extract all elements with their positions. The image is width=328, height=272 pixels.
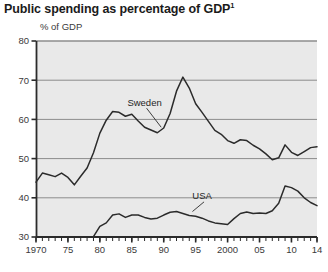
y-tick-label: 80 bbox=[18, 35, 29, 46]
x-tick-label: 14 bbox=[312, 244, 323, 255]
series-label-usa: USA bbox=[192, 190, 212, 201]
x-tick-label: 75 bbox=[63, 244, 74, 255]
x-tick-label: 90 bbox=[158, 244, 169, 255]
y-tick-labels-group: 304050607080 bbox=[18, 35, 29, 242]
chart-figure: Public spending as percentage of GDP1 % … bbox=[0, 0, 328, 272]
line-chart-plot: 304050607080 197075808590952000051014 Sw… bbox=[0, 0, 328, 272]
x-tick-label: 2000 bbox=[217, 244, 238, 255]
x-tick-label: 95 bbox=[190, 244, 201, 255]
y-tick-label: 30 bbox=[18, 231, 29, 242]
series-label-sweden: Sweden bbox=[127, 97, 161, 108]
y-tick-label: 70 bbox=[18, 75, 29, 86]
x-tick-label: 80 bbox=[95, 244, 106, 255]
x-tick-label: 05 bbox=[254, 244, 265, 255]
x-tick-label: 10 bbox=[286, 244, 297, 255]
y-tick-label: 50 bbox=[18, 153, 29, 164]
y-tick-label: 60 bbox=[18, 114, 29, 125]
y-tick-label: 40 bbox=[18, 192, 29, 203]
x-tick-label: 85 bbox=[127, 244, 138, 255]
x-tick-label: 1970 bbox=[25, 244, 46, 255]
x-tick-labels-group: 197075808590952000051014 bbox=[25, 244, 322, 255]
